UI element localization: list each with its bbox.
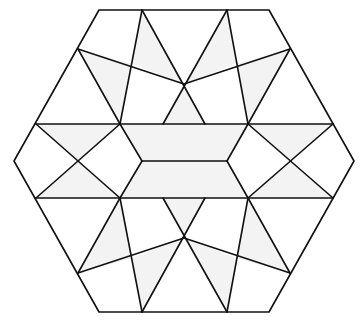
shaded-region bbox=[78, 198, 132, 273]
shaded-region bbox=[78, 49, 132, 124]
shaded-region bbox=[236, 198, 290, 273]
shaded-region bbox=[36, 161, 120, 198]
shaded-region bbox=[163, 84, 205, 124]
shaded-region bbox=[248, 124, 333, 161]
shaded-region bbox=[236, 49, 290, 124]
shaded-region bbox=[36, 124, 120, 161]
shaded-region bbox=[248, 161, 333, 198]
shaded-region bbox=[163, 198, 205, 238]
diagram-canvas bbox=[0, 0, 362, 322]
inner-lines bbox=[36, 10, 333, 312]
hexagon-diagram bbox=[0, 0, 362, 322]
